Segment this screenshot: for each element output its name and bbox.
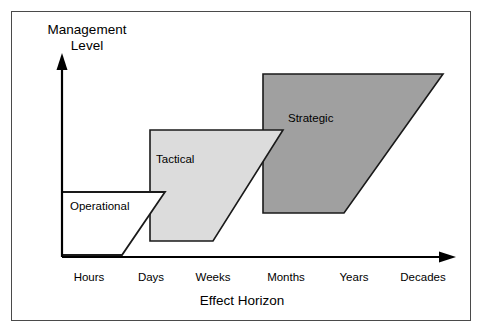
x-axis-arrowhead-icon (439, 252, 456, 263)
band-label-tactical: Tactical (156, 153, 194, 165)
x-tick-label-decades: Decades (392, 271, 454, 283)
x-tick-label-hours: Hours (62, 271, 116, 283)
y-axis-arrowhead-icon (57, 53, 68, 70)
x-tick-label-weeks: Weeks (186, 271, 240, 283)
x-tick-label-days: Days (127, 271, 175, 283)
diagram-canvas: Management Level Hours Days Weeks Months… (0, 0, 484, 336)
y-axis-title: Management Level (27, 22, 147, 53)
band-label-strategic: Strategic (288, 112, 333, 124)
x-axis-title: Effect Horizon (0, 293, 484, 308)
y-axis-title-line1: Management (27, 22, 147, 38)
x-tick-label-months: Months (258, 271, 314, 283)
y-axis-title-line2: Level (27, 38, 147, 54)
band-label-operational: Operational (70, 200, 129, 212)
band-strategic-shape (263, 74, 443, 213)
x-tick-label-years: Years (330, 271, 378, 283)
